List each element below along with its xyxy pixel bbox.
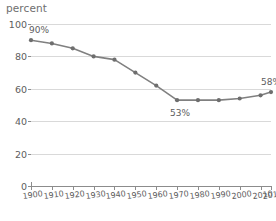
data-point — [238, 96, 242, 100]
data-label-53pct: 53% — [170, 108, 190, 118]
data-point — [133, 71, 137, 75]
data-point — [50, 41, 54, 45]
line-chart: percent 020406080100 1900191019201930194… — [0, 0, 276, 221]
data-point — [196, 98, 200, 102]
data-label-58pct: 58% — [261, 77, 276, 87]
series-markers — [29, 38, 273, 102]
data-point — [154, 83, 158, 87]
data-point — [71, 46, 75, 50]
data-point — [92, 54, 96, 58]
series-line — [31, 40, 271, 100]
data-point — [29, 38, 33, 42]
data-point — [258, 93, 262, 97]
data-point — [269, 90, 273, 94]
data-point — [175, 98, 179, 102]
data-label-90pct: 90% — [29, 25, 49, 35]
data-point — [217, 98, 221, 102]
data-point — [112, 58, 116, 62]
